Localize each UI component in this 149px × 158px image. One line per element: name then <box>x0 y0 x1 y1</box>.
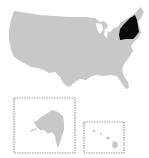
hawaii-inset-frame <box>84 122 124 153</box>
hawaii-island-big-island <box>112 141 118 149</box>
contiguous-us-shape <box>9 7 144 89</box>
hawaii-island-kauai <box>93 130 95 132</box>
aleutian-islands-shape <box>30 128 37 132</box>
hawaii-island-maui <box>106 137 110 140</box>
map-canvas <box>0 0 149 158</box>
hawaii-island-oahu <box>100 133 102 135</box>
alaska-shape <box>34 110 64 148</box>
us-locator-map: United States locator map New York <box>0 0 149 158</box>
